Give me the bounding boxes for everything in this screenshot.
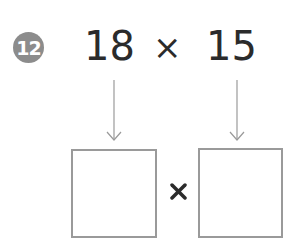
problem-number-badge: 12: [13, 32, 44, 63]
problem-number: 12: [16, 37, 40, 59]
answer-box-right[interactable]: [198, 148, 283, 238]
answer-box-left[interactable]: [71, 149, 157, 238]
multiply-sign-icon: [170, 183, 187, 200]
left-operand: 18: [84, 22, 135, 70]
right-operand: 15: [206, 22, 257, 70]
down-arrow-icon: [227, 80, 247, 142]
multiply-sign: ×: [153, 30, 182, 64]
down-arrow-icon: [104, 80, 124, 142]
